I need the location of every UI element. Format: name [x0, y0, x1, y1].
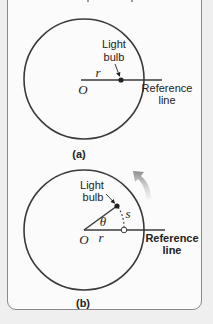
circle-path-a — [24, 19, 144, 139]
light-bulb-pointer-a — [115, 64, 120, 76]
reference-position-marker — [121, 227, 127, 233]
diagram-b: Light bulb θ s r O Reference line (b) — [24, 170, 199, 309]
reference-label-b-line1: Reference — [145, 232, 198, 244]
diagram-a: Light bulb r O Reference line (a) — [24, 19, 192, 160]
light-bulb-label-a-line1: Light — [102, 38, 126, 50]
angle-theta-label: θ — [100, 214, 107, 229]
arc-s-dashed — [118, 207, 124, 227]
light-bulb-label-b-line2: bulb — [83, 191, 104, 203]
cropped-text-fragments — [87, 0, 133, 2]
light-bulb-dot-b — [114, 203, 119, 208]
caption-a: (a) — [72, 148, 86, 160]
reference-label-b-line2: line — [163, 244, 182, 256]
rotation-figure: Light bulb r O Reference line (a) Light … — [0, 0, 213, 324]
reference-label-a-line2: line — [158, 94, 175, 106]
origin-label-a: O — [78, 82, 88, 97]
light-bulb-label-b-line1: Light — [80, 179, 104, 191]
arc-length-label: s — [125, 206, 130, 221]
caption-b: (b) — [76, 297, 90, 309]
radius-label-b: r — [98, 230, 104, 245]
reference-label-a-line1: Reference — [142, 82, 193, 94]
origin-label-b: O — [79, 232, 89, 247]
light-bulb-dot-a — [118, 77, 123, 82]
radius-label-a: r — [95, 65, 101, 80]
rotation-direction-arrow-icon — [133, 171, 151, 199]
light-bulb-pointer-b — [106, 194, 115, 203]
light-bulb-label-a-line2: bulb — [104, 51, 125, 63]
